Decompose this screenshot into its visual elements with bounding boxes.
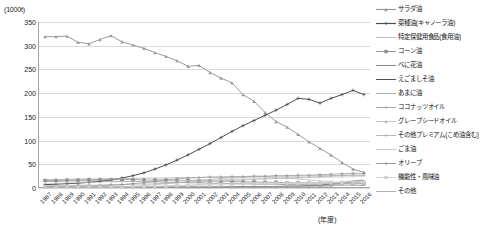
x-axis-tick-label: 2015 [348, 191, 362, 205]
data-point [274, 182, 277, 185]
data-point [186, 184, 189, 187]
legend-marker-icon [376, 116, 396, 127]
legend-label: ごま油 [398, 144, 416, 152]
data-point [219, 183, 222, 186]
data-point [307, 181, 310, 184]
x-axis-tick-label: 2003 [216, 191, 230, 205]
data-point [54, 185, 57, 188]
x-axis-tick-label: 2009 [282, 191, 296, 205]
data-point [384, 106, 387, 109]
data-point [362, 180, 365, 183]
series-line [45, 90, 364, 184]
series-lines [39, 22, 370, 187]
data-point [153, 167, 156, 170]
x-axis-tick-label: 2006 [249, 191, 263, 205]
y-axis-unit-label: (1000t) [4, 6, 25, 13]
legend-item-4[interactable]: べに花油 [376, 60, 500, 73]
data-point [384, 134, 387, 137]
legend-label: その他プレミアム(こめ油含む) [398, 130, 479, 138]
data-point [285, 125, 288, 128]
legend-marker-icon [376, 186, 396, 197]
data-point [142, 171, 145, 174]
data-point [241, 182, 244, 185]
legend-label: べに花油 [398, 60, 422, 68]
x-axis-tick-label: 2005 [238, 191, 252, 205]
legend-item-13[interactable]: その他 [376, 186, 500, 199]
data-point [252, 119, 255, 122]
legend-label: 機能性・風味油 [398, 172, 439, 180]
legend-item-5[interactable]: えごましそ油 [376, 74, 500, 87]
x-axis-tick-label: 2001 [194, 191, 208, 205]
legend-label: ココナッツオイル [398, 102, 445, 110]
series-0 [43, 34, 365, 174]
chart-page: (1000t) 050100150200250300350 1987198819… [0, 0, 500, 229]
chart-legend: サラダ油菜種油(キャノーラ油)特定保健用食品(食用油)コーン油べに花油えごましそ… [376, 4, 500, 200]
legend-marker-icon [376, 102, 396, 113]
legend-marker-icon [376, 4, 396, 15]
y-axis-tick-label: 50 [28, 161, 36, 168]
data-point [318, 101, 321, 104]
legend-label: サラダ油 [398, 4, 422, 12]
legend-item-1[interactable]: 菜種油(キャノーラ油) [376, 18, 500, 31]
data-point [109, 185, 112, 188]
data-point [351, 180, 354, 183]
data-point [307, 174, 310, 177]
data-point [87, 185, 90, 188]
data-point [285, 174, 288, 177]
data-point [263, 182, 266, 185]
data-point [43, 185, 46, 188]
y-axis-tick-label: 250 [24, 66, 36, 73]
legend-item-10[interactable]: ごま油 [376, 144, 500, 157]
data-point [285, 182, 288, 185]
data-point [197, 148, 200, 151]
legend-item-6[interactable]: あまに油 [376, 88, 500, 101]
legend-marker-icon [376, 60, 396, 71]
legend-item-7[interactable]: ココナッツオイル [376, 102, 500, 115]
data-point [153, 184, 156, 187]
y-axis-tick-label: 200 [24, 90, 36, 97]
legend-marker-icon [376, 46, 396, 57]
x-axis-title: (年度) [318, 214, 337, 224]
data-point [131, 174, 134, 177]
data-point [164, 163, 167, 166]
x-axis-tick-label: 2002 [205, 191, 219, 205]
data-point [65, 185, 68, 188]
legend-label: その他 [398, 186, 416, 194]
data-point [384, 50, 387, 53]
legend-item-9[interactable]: その他プレミアム(こめ油含む) [376, 130, 500, 143]
data-point [351, 172, 354, 175]
legend-label: オリーブ [398, 158, 422, 166]
y-axis-tick-label: 150 [24, 113, 36, 120]
data-point [230, 183, 233, 186]
data-point [164, 184, 167, 187]
legend-marker-icon [376, 144, 396, 155]
legend-item-11[interactable]: オリーブ [376, 158, 500, 171]
y-axis-tick-label: 100 [24, 137, 36, 144]
data-point [384, 162, 387, 165]
legend-item-3[interactable]: コーン油 [376, 46, 500, 59]
data-point [274, 174, 277, 177]
legend-item-2[interactable]: 特定保健用食品(食用油) [376, 32, 500, 45]
data-point [340, 181, 343, 184]
legend-label: グレープシードオイル [398, 116, 457, 124]
data-point [98, 185, 101, 188]
legend-label: コーン油 [398, 46, 422, 54]
y-axis-tick-label: 350 [24, 19, 36, 26]
legend-marker-icon [376, 172, 396, 183]
y-axis-tick-label: 300 [24, 42, 36, 49]
data-point [120, 185, 123, 188]
legend-item-0[interactable]: サラダ油 [376, 4, 500, 17]
data-point [175, 158, 178, 161]
x-axis-tick-label: 2014 [337, 191, 351, 205]
x-axis-tick-label: 2011 [304, 191, 317, 204]
x-axis-labels: 1987198819891990199119921993199419951996… [38, 190, 370, 216]
legend-marker-icon [376, 18, 396, 29]
legend-marker-icon [376, 32, 396, 43]
data-point [362, 93, 365, 96]
legend-marker-icon [376, 74, 396, 85]
legend-item-8[interactable]: グレープシードオイル [376, 116, 500, 129]
data-point [351, 89, 354, 92]
data-point [329, 181, 332, 184]
legend-item-12[interactable]: 機能性・風味油 [376, 172, 500, 185]
legend-label: えごましそ油 [398, 74, 433, 82]
